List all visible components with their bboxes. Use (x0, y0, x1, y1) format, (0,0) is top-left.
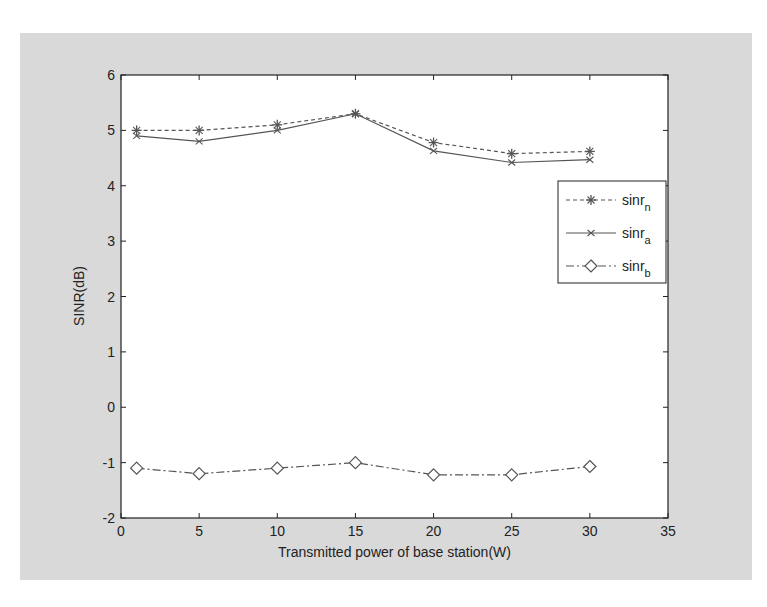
x-tick-label: 25 (504, 523, 520, 539)
x-axis-label: Transmitted power of base station(W) (278, 544, 511, 560)
y-tick-label: 5 (107, 122, 115, 138)
y-tick-label: 0 (107, 399, 115, 415)
y-tick-label: 1 (107, 344, 115, 360)
y-tick-label: 6 (107, 67, 115, 83)
x-tick-label: 20 (426, 523, 442, 539)
y-tick-label: 3 (107, 233, 115, 249)
y-axis-label: SINR(dB) (71, 266, 87, 326)
y-tick-label: 4 (107, 178, 115, 194)
y-tick-label: -2 (103, 510, 116, 526)
y-tick-label: -1 (103, 455, 116, 471)
x-tick-label: 5 (195, 523, 203, 539)
sinr-line-chart: 05101520253035-2-10123456 sinrnsinrasinr… (0, 0, 767, 607)
legend: sinrnsinrasinrb (558, 181, 666, 283)
x-tick-label: 30 (582, 523, 598, 539)
x-tick-label: 10 (269, 523, 285, 539)
x-tick-label: 0 (117, 523, 125, 539)
x-tick-label: 15 (348, 523, 364, 539)
y-tick-label: 2 (107, 289, 115, 305)
x-tick-label: 35 (660, 523, 676, 539)
